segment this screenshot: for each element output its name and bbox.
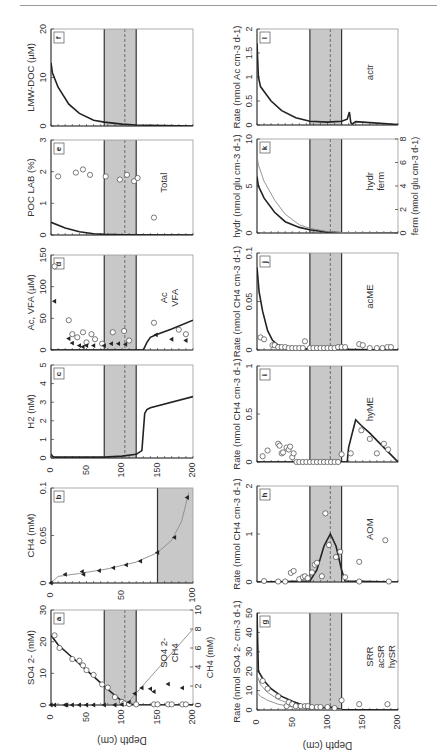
y-axis-label: SO4 2- (mM) <box>25 630 36 685</box>
data-point <box>309 570 314 575</box>
legend-entry: VFA <box>169 288 180 307</box>
svg-text:c: c <box>54 371 63 376</box>
value-tick-label: 1 <box>38 201 48 206</box>
panel-letter: b <box>54 491 64 502</box>
value-tick-label: 0 <box>38 123 48 128</box>
data-point <box>277 443 282 448</box>
data-point <box>261 578 266 583</box>
smtz-band <box>310 613 342 710</box>
data-point <box>348 451 353 456</box>
svg-text:l: l <box>260 37 269 39</box>
data-point-triangle <box>183 338 187 343</box>
legend-entry: SO4 2- <box>158 638 169 668</box>
panel-letter: h <box>260 489 270 500</box>
data-point <box>91 672 96 677</box>
data-point <box>151 215 156 220</box>
data-point-triangle <box>77 703 81 708</box>
depth-tick-label: 50 <box>81 465 91 475</box>
figure-canvas: 01020300246810CH4 (mM)SO4 2- (mM)aSO4 2-… <box>0 0 437 756</box>
value-tick-label: 2 <box>38 418 48 423</box>
data-point <box>305 576 310 581</box>
value-tick-label: 0 <box>38 232 48 237</box>
y-axis-label: H2 (nM) <box>25 394 36 428</box>
svg-text:b: b <box>54 494 63 499</box>
legend-entry: Total <box>158 173 169 193</box>
value-tick-label: 40 <box>244 627 254 637</box>
y-axis-label: POC LAB (%) <box>25 158 36 217</box>
legend-entry: hyME <box>364 397 375 421</box>
y2-axis-label: ferm (nmol glu cm-3 d-1) <box>410 137 420 236</box>
data-point <box>383 538 388 543</box>
smtz-band <box>158 488 194 583</box>
panel-k: 051002468ferm (nmol glu cm-3 d-1)hydr (n… <box>231 134 420 238</box>
value-tick-label: 150 <box>38 247 48 262</box>
y-axis-label: Ac, VFA (µM) <box>25 274 36 330</box>
value2-tick-label: 2 <box>398 207 408 212</box>
value-tick-label: 10 <box>38 668 48 678</box>
value-tick-label: 10 <box>244 686 254 696</box>
data-point <box>280 450 285 455</box>
value-tick-label: 0.5 <box>244 408 254 421</box>
value-tick-label: 4 <box>38 381 48 386</box>
panel-letter: f <box>54 32 64 43</box>
data-point <box>52 264 57 269</box>
panel-letter: i <box>260 369 270 380</box>
smtz-band <box>104 140 136 235</box>
legend-entry: Ac <box>158 292 169 303</box>
data-point <box>80 330 85 335</box>
data-point <box>339 698 344 703</box>
depth-tick-label: 0 <box>45 467 55 472</box>
data-point <box>276 579 281 584</box>
data-point <box>155 702 160 707</box>
value-tick-label: 0.1 <box>244 247 254 260</box>
value2-tick-label: 8 <box>398 136 408 141</box>
panel-g: 01020304050Rate (nmol SO4 2- cm-3 d-1)gS… <box>231 600 402 751</box>
panel-a: 01020300246810CH4 (mM)SO4 2- (mM)aSO4 2-… <box>25 605 215 746</box>
data-point <box>291 451 296 456</box>
data-point <box>374 345 379 350</box>
depth-axis-label: Depth (cm) <box>97 735 146 746</box>
legend-entry: ferm <box>375 172 386 191</box>
data-point <box>80 167 85 172</box>
data-point <box>339 452 344 457</box>
value-tick-label: 1 <box>244 74 254 79</box>
data-point <box>323 511 328 516</box>
data-point <box>183 702 188 707</box>
value-tick-label: 0 <box>38 702 48 707</box>
svg-text:g: g <box>260 619 269 624</box>
depth-axis-label: Depth (cm) <box>303 740 352 751</box>
data-point <box>343 575 348 580</box>
depth-tick-label: 50 <box>287 717 297 727</box>
data-point <box>57 645 62 650</box>
y-axis-label: Rate (nmol CH4 cm-3 d-1) <box>231 246 242 357</box>
value-tick-label: 3 <box>38 137 48 142</box>
svg-text:j: j <box>260 261 269 264</box>
value-tick-label: 0.05 <box>38 527 48 545</box>
data-point <box>302 339 307 344</box>
data-point-triangle <box>148 686 152 691</box>
smtz-band <box>104 255 136 350</box>
data-point <box>326 542 331 547</box>
data-point <box>386 447 391 452</box>
value-tick-label: 0.05 <box>244 293 254 311</box>
value-tick-label: 50 <box>244 608 254 618</box>
svg-text:k: k <box>260 145 269 150</box>
data-point <box>309 704 314 709</box>
smtz-band <box>310 139 342 233</box>
data-point <box>103 174 108 179</box>
data-point <box>183 332 188 337</box>
data-point <box>300 345 305 350</box>
data-point <box>360 343 365 348</box>
depth-tick-label: 200 <box>392 714 402 729</box>
value-tick-label: 0 <box>244 459 254 464</box>
panel-f: 01020LMW-DOC (µM)f <box>25 24 193 129</box>
svg-text:f: f <box>54 36 63 39</box>
data-point <box>110 330 115 335</box>
data-point <box>380 345 385 350</box>
data-point <box>135 175 140 180</box>
value-tick-label: 0.1 <box>38 482 48 495</box>
value-tick-label: 2 <box>244 483 254 488</box>
data-point <box>357 579 362 584</box>
data-point <box>359 428 364 433</box>
data-point <box>77 658 82 663</box>
